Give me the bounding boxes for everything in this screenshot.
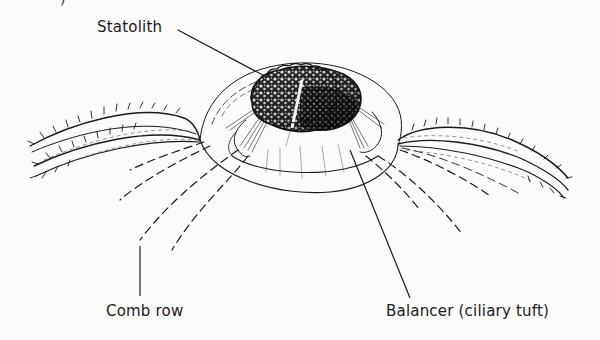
statocyst-illustration xyxy=(0,0,600,340)
balancer-label: Balancer (ciliary tuft) xyxy=(386,302,549,320)
ciliated-groove-left xyxy=(28,102,200,178)
cropped-text-fragment: ) xyxy=(60,0,66,7)
statolith-label: Statolith xyxy=(97,18,162,36)
comb-row-label: Comb row xyxy=(106,302,183,320)
statocyst-diagram: ) Statolith Comb row Balancer (ciliary t… xyxy=(0,0,600,340)
statolith-leader-line xyxy=(178,30,272,80)
statolith xyxy=(251,64,361,132)
comb-rows xyxy=(120,142,520,250)
dome-base-ring-outer xyxy=(200,140,398,193)
ciliated-groove-right xyxy=(398,118,572,198)
